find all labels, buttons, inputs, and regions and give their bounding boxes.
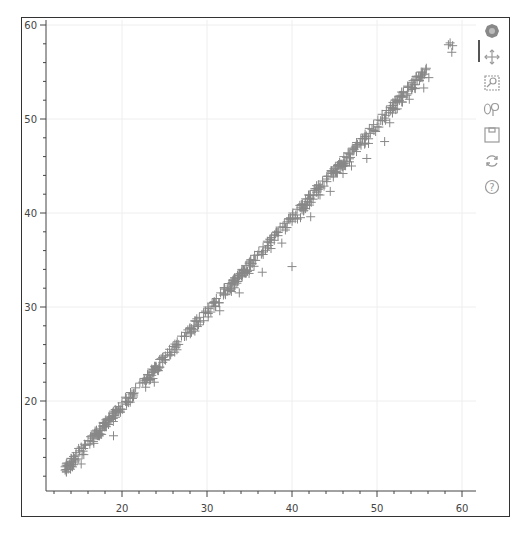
y-tick-label: 50 <box>24 114 37 125</box>
help-icon[interactable]: ? <box>480 176 504 198</box>
x-tick-label: 60 <box>456 503 469 514</box>
scatter-plot[interactable]: 20304050602030405060 <box>0 0 526 538</box>
y-tick-label: 60 <box>24 20 37 31</box>
x-tick-label: 30 <box>201 503 214 514</box>
x-tick-label: 50 <box>371 503 384 514</box>
svg-text:?: ? <box>489 182 494 193</box>
bokeh-logo-icon[interactable] <box>480 20 504 42</box>
pan-icon[interactable] <box>480 46 504 68</box>
plot-toolbar: ? <box>478 20 508 202</box>
box-zoom-icon[interactable] <box>480 72 504 94</box>
reset-icon[interactable] <box>480 150 504 172</box>
scatter-markers <box>61 38 458 476</box>
y-tick-label: 40 <box>24 208 37 219</box>
y-tick-label: 30 <box>24 302 37 313</box>
x-tick-label: 20 <box>116 503 129 514</box>
y-tick-label: 20 <box>24 396 37 407</box>
x-tick-label: 40 <box>286 503 299 514</box>
save-icon[interactable] <box>480 124 504 146</box>
wheel-zoom-icon[interactable] <box>480 98 504 120</box>
